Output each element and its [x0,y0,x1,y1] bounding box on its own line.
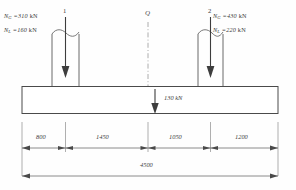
column-1-load-live-text: NL =160 kN [4,26,37,33]
column-1-load-dead-label: NG =310 kN [4,12,38,20]
footing-beam [22,87,278,114]
column-2-load-live-label: NL =220 kN [213,26,246,34]
column-2-load-dead-label: NG =430 kN [213,12,247,20]
column-1-load-dead-text: NG =310 kN [4,12,38,19]
column-2-marker: 2 [208,7,211,14]
column-1-load-live-label: NL =160 kN [4,26,37,34]
beam-load-label: 130 kN [164,94,182,101]
column-2-load-live-text: NL =220 kN [213,26,246,33]
dimension-segment-4-label: 1200 [235,133,248,140]
dimension-segment-1-label: 800 [36,133,46,140]
column-1-marker: 1 [63,7,66,14]
diagram-canvas: NG =310 kN NL =160 kN NG =430 kN NL =220… [0,0,296,190]
dimension-segment-2-label: 1450 [96,133,109,140]
column-2-load-dead-text: NG =430 kN [213,12,247,19]
dimension-chain-segments [22,146,278,151]
dimension-total-label: 4500 [140,161,153,168]
dimension-segment-3-label: 1050 [169,133,182,140]
centerline-q-label: Q [145,9,150,17]
dimension-total [22,174,278,179]
column-1-graphic [52,17,79,87]
